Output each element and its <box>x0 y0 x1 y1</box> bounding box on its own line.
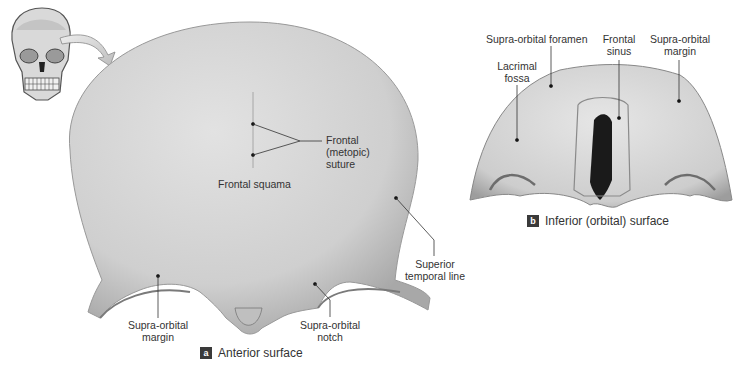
label-lacrimal-fossa: Lacrimal fossa <box>494 60 540 84</box>
label-supra-orbital-foramen: Supra-orbital foramen <box>486 33 588 45</box>
label-supra-orbital-margin-a: Supra-orbital margin <box>118 319 198 343</box>
label-frontal-suture: Frontal (metopic) suture <box>326 134 370 170</box>
panel-badge-b: b <box>527 215 539 227</box>
caption-panel-b: b Inferior (orbital) surface <box>527 214 669 228</box>
label-superior-temporal-line: Superior temporal line <box>398 258 472 282</box>
skull-thumbnail-icon <box>12 8 70 100</box>
label-supra-orbital-margin-b: Supra-orbital margin <box>644 33 716 57</box>
label-frontal-squama: Frontal squama <box>218 178 291 190</box>
caption-text-b: Inferior (orbital) surface <box>545 214 669 228</box>
label-supra-orbital-notch: Supra-orbital notch <box>290 319 370 343</box>
caption-panel-a: a Anterior surface <box>200 346 303 360</box>
caption-text-a: Anterior surface <box>218 346 303 360</box>
panel-badge-a: a <box>200 347 212 359</box>
label-frontal-sinus: Frontal sinus <box>598 33 640 57</box>
